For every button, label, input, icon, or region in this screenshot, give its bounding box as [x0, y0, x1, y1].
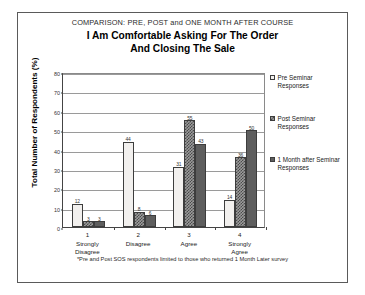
- bar: 3: [83, 221, 94, 227]
- bar-value-label: 12: [75, 199, 80, 204]
- x-category-text: Agree: [181, 240, 198, 249]
- x-axis-category-label: 1StronglyDisagree: [75, 231, 100, 257]
- chart-legend: Pre Seminar ResponsesPost Seminar Respon…: [270, 74, 344, 197]
- chart-supertitle: COMPARISON: PRE, POST and ONE MONTH AFTE…: [18, 18, 347, 27]
- bar: 12: [72, 204, 83, 227]
- x-category-text: Strongly: [228, 240, 251, 249]
- legend-entry: 1 Month after Seminar Responses: [270, 156, 344, 172]
- y-tick-mark: [61, 229, 63, 230]
- y-tick-label: 40: [54, 149, 60, 155]
- y-tick-label: 30: [54, 168, 60, 174]
- white-square-icon: [270, 75, 275, 80]
- y-tick-label: 0: [57, 226, 60, 232]
- x-axis-category-label: 2Disagree: [126, 231, 151, 248]
- x-tick-mark: [215, 227, 216, 230]
- bar: 36: [235, 157, 246, 227]
- legend-entry: Post Seminar Responses: [270, 115, 344, 131]
- x-category-text: Strongly: [75, 240, 100, 249]
- bar-value-label: 36: [238, 153, 243, 158]
- legend-entry: Pre Seminar Responses: [270, 74, 344, 90]
- bar-group: 143650: [215, 74, 266, 227]
- bar-group: 1233: [63, 74, 114, 227]
- hatched-square-icon: [270, 116, 275, 121]
- x-axis-category-label: 3Agree: [181, 231, 198, 248]
- bar-value-label: 6: [149, 211, 152, 216]
- chart-title: I Am Comfortable Asking For The Order An…: [18, 30, 347, 55]
- bar: 43: [195, 144, 206, 227]
- bar-value-label: 43: [198, 139, 203, 144]
- y-tick-label: 20: [54, 187, 60, 193]
- x-category-number: 2: [126, 231, 151, 240]
- chart-title-line2: And Closing The Sale: [18, 43, 347, 56]
- bar-group: 315543: [165, 74, 216, 227]
- x-tick-mark: [165, 227, 166, 230]
- x-tick-mark: [266, 227, 267, 230]
- bar: 14: [224, 200, 235, 227]
- x-tick-mark: [114, 227, 115, 230]
- y-tick-label: 60: [54, 110, 60, 116]
- bar: 44: [123, 142, 134, 227]
- y-tick-label: 70: [54, 90, 60, 96]
- black-square-icon: [270, 157, 275, 162]
- x-category-number: 1: [75, 231, 100, 240]
- bar-group: 4486: [114, 74, 165, 227]
- chart-footnote: *Pre and Post SOS respondents limited to…: [18, 256, 347, 262]
- y-tick-label: 50: [54, 129, 60, 135]
- x-category-number: 3: [181, 231, 198, 240]
- chart-title-line1: I Am Comfortable Asking For The Order: [18, 30, 347, 43]
- x-category-number: 4: [228, 231, 251, 240]
- x-category-text: Disagree: [126, 240, 151, 249]
- legend-label: 1 Month after Seminar Responses: [278, 156, 345, 172]
- bar-value-label: 8: [138, 207, 141, 212]
- bar-value-label: 31: [176, 162, 181, 167]
- chart-container: COMPARISON: PRE, POST and ONE MONTH AFTE…: [17, 12, 348, 283]
- bar-value-label: 3: [87, 217, 90, 222]
- bar: 31: [173, 167, 184, 227]
- bar-value-label: 14: [227, 195, 232, 200]
- bar-value-label: 50: [249, 126, 254, 131]
- y-tick-label: 10: [54, 207, 60, 213]
- y-axis-label: Total Number of Respondents (%): [30, 53, 39, 193]
- bar-value-label: 3: [98, 217, 101, 222]
- bar: 3: [94, 221, 105, 227]
- chart-header: COMPARISON: PRE, POST and ONE MONTH AFTE…: [18, 13, 347, 55]
- bar: 50: [246, 130, 257, 227]
- legend-label: Post Seminar Responses: [278, 115, 345, 131]
- bar-value-label: 44: [125, 137, 130, 142]
- bar: 8: [134, 212, 145, 228]
- bar: 6: [145, 215, 156, 227]
- bar-value-label: 55: [187, 116, 192, 121]
- bar: 55: [184, 120, 195, 227]
- legend-label: Pre Seminar Responses: [278, 74, 345, 90]
- y-tick-label: 80: [54, 71, 60, 77]
- plot-area: 0102030405060708012334486315543143650: [62, 73, 265, 228]
- x-axis-category-label: 4StronglyAgree: [228, 231, 251, 257]
